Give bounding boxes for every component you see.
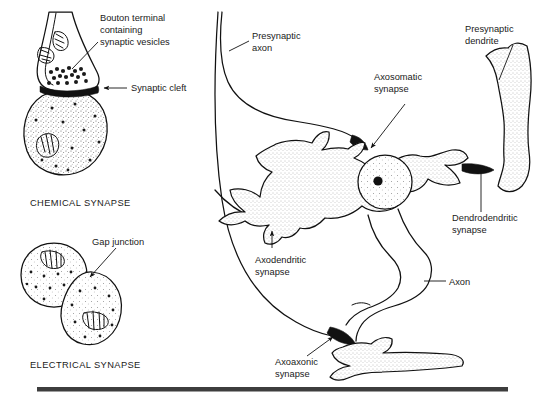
label-presynaptic-dendrite-line2: dendrite [465,36,499,46]
label-presynaptic-axon-line2: axon [252,43,272,53]
footer-rule [37,387,508,392]
label-presynaptic-dendrite-line1: Presynaptic [465,24,514,34]
label-gap-junction: Gap junction [92,237,144,247]
label-bouton-terminal-line2: containing [100,25,142,35]
label-bouton-terminal-line1: Bouton terminal [100,13,165,23]
caption-chemical-synapse: CHEMICAL SYNAPSE [30,198,131,208]
label-presynaptic-axon-line1: Presynaptic [252,31,301,41]
synapse-types-figure: Bouton terminal containing synaptic vesi… [0,0,545,398]
label-dendrodendritic-line2: synapse [452,225,487,235]
nucleus [358,155,412,209]
label-axoaxonic-line2: synapse [275,369,310,379]
caption-electrical-synapse: ELECTRICAL SYNAPSE [30,360,141,370]
label-axoaxonic-line1: Axoaxonic [275,357,318,367]
label-synaptic-cleft: Synaptic cleft [131,83,187,93]
label-bouton-terminal-line3: synaptic vesicles [100,37,170,47]
label-dendrodendritic-line1: Dendrodendritic [452,213,518,223]
nucleolus [373,176,382,185]
label-axosomatic-line1: Axosomatic [374,72,422,82]
postsynaptic-soma [24,90,107,175]
label-axon: Axon [449,277,470,287]
label-axosomatic-line2: synapse [374,84,409,94]
figure-canvas: Bouton terminal containing synaptic vesi… [0,0,545,398]
label-axodendritic-line1: Axodendritic [255,255,307,265]
label-axodendritic-line2: synapse [255,267,290,277]
